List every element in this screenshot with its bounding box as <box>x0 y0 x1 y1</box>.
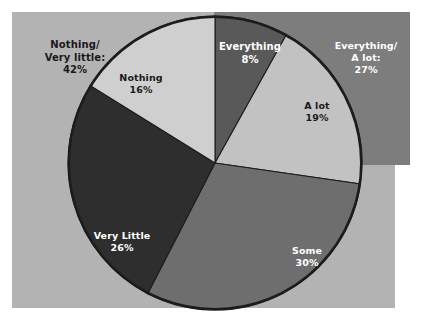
pie-chart-figure: Nothing/ Very little: 42% Everything/ A … <box>0 0 427 325</box>
slice-label-a-lot: A lot 19% <box>286 88 348 137</box>
slice-label-very-little-name: Very Little <box>94 230 151 241</box>
slice-label-a-lot-name: A lot <box>304 100 329 111</box>
slice-label-very-little-value: 26% <box>79 242 165 254</box>
slice-label-everything-value: 8% <box>211 54 289 67</box>
group-label-everything-a-lot-value: 27% <box>316 64 416 76</box>
slice-label-some-name: Some <box>292 245 322 256</box>
group-label-nothing-very-little-name: Nothing/ Very little: <box>45 39 106 63</box>
slice-label-nothing: Nothing 16% <box>106 60 176 109</box>
slice-label-nothing-value: 16% <box>106 84 176 96</box>
group-label-everything-a-lot: Everything/ A lot: 27% <box>316 28 416 89</box>
group-label-everything-a-lot-name: Everything/ A lot: <box>335 40 398 63</box>
slice-label-a-lot-value: 19% <box>286 112 348 124</box>
slice-label-some-value: 30% <box>276 257 338 269</box>
slice-label-everything-name: Everything <box>219 41 281 52</box>
slice-label-some: Some 30% <box>276 233 338 282</box>
slice-label-very-little: Very Little 26% <box>79 218 165 267</box>
slice-label-nothing-name: Nothing <box>119 72 162 83</box>
slice-label-everything: Everything 8% <box>211 28 289 79</box>
